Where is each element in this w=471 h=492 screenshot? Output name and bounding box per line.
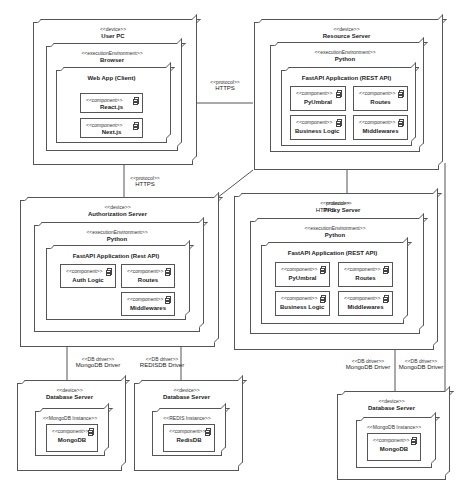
- component-icon: [399, 119, 404, 126]
- component-auth-logic[interactable]: <<component>> Auth Logic: [60, 264, 116, 288]
- component-redisdb[interactable]: <<component>> RedisDB: [163, 424, 215, 452]
- proxy-server-node[interactable]: <<protocol>><<device>> HTTPSProxy Server…: [234, 196, 434, 350]
- connection-label-pc-auth: <<protocol>> HTTPS: [120, 175, 170, 187]
- component-icon: [321, 266, 326, 273]
- proxy-title: HTTPSProxy Server: [235, 207, 433, 213]
- component-icon: [134, 97, 139, 104]
- component-business-logic[interactable]: <<component>> Business Logic: [275, 291, 330, 316]
- component-icon: [384, 295, 389, 302]
- component-icon: [337, 119, 342, 126]
- proxy-stereotype: <<protocol>><<device>>: [235, 200, 433, 206]
- component-icon: [206, 428, 211, 435]
- python-env-node[interactable]: <<executionEnvironment>> Python FastAPI …: [270, 45, 420, 152]
- python-env-node[interactable]: <<executionEnvironment>> Python FastAPI …: [250, 221, 420, 334]
- component-middlewares[interactable]: <<component>> Middlewares: [121, 292, 175, 316]
- redis-instance-node[interactable]: <<REDIS Instance>> <<component>> RedisDB: [152, 411, 222, 456]
- component-middlewares[interactable]: <<component>> Middlewares: [338, 291, 393, 316]
- fastapi-app-node[interactable]: FastAPI Application (Rest API) <<compone…: [46, 248, 186, 320]
- component-icon: [321, 295, 326, 302]
- component-icon: [337, 90, 342, 97]
- component-nextjs[interactable]: <<component>> Next.js: [80, 118, 143, 138]
- component-icon: [107, 268, 112, 275]
- mongodb-instance-node[interactable]: <<MongoDB Instance>> <<component>> Mongo…: [35, 411, 105, 456]
- component-mongodb[interactable]: <<component>> MongoDB: [367, 433, 421, 461]
- authorization-server-node[interactable]: <<device>> Authorization Server <<execut…: [20, 200, 215, 347]
- connection-label-resource-mongo: <<DB driver>> MongoDB Driver: [396, 358, 446, 370]
- connection-label-pc-resource: <<protocol>> HTTPS: [200, 79, 250, 91]
- web-app-node[interactable]: Web App (Client) <<component>> React.js …: [56, 70, 167, 143]
- component-routes[interactable]: <<component>> Routes: [121, 264, 175, 288]
- component-routes[interactable]: <<component>> Routes: [353, 86, 408, 111]
- component-reactjs[interactable]: <<component>> React.js: [80, 93, 143, 113]
- component-business-logic[interactable]: <<component>> Business Logic: [290, 115, 346, 140]
- mongodb-instance-node[interactable]: <<MongoDB Instance>> <<component>> Mongo…: [356, 420, 432, 468]
- connection-label-proxy-mongo: <<DB driver>> MongoDB Driver: [340, 358, 396, 370]
- fastapi-app-node[interactable]: FastAPI Application (REST API) <<compone…: [261, 245, 404, 324]
- user-pc-node[interactable]: <<device>> User PC <<executionEnvironmen…: [33, 22, 193, 165]
- component-pyumbral[interactable]: <<component>> PyUmbral: [275, 262, 330, 287]
- database-server-mongodb-node[interactable]: <<device>> Database Server <<MongoDB Ins…: [17, 383, 122, 471]
- connection-label-auth-mongo: <<DB driver>> MongoDB Driver: [68, 356, 128, 368]
- database-server-redis-node[interactable]: <<device>> Database Server <<REDIS Insta…: [134, 383, 239, 471]
- component-icon: [166, 268, 171, 275]
- fastapi-app-node[interactable]: FastAPI Application (REST API) <<compone…: [281, 70, 412, 146]
- component-routes[interactable]: <<component>> Routes: [338, 262, 393, 287]
- component-pyumbral[interactable]: <<component>> PyUmbral: [290, 86, 346, 111]
- browser-env-node[interactable]: <<executionEnvironment>> Browser Web App…: [46, 46, 178, 151]
- component-icon: [412, 437, 417, 444]
- component-icon: [384, 266, 389, 273]
- component-icon: [134, 122, 139, 129]
- python-env-node[interactable]: <<executionEnvironment>> Python FastAPI …: [34, 225, 200, 332]
- component-icon: [399, 90, 404, 97]
- database-server-mongodb-2-node[interactable]: <<device>> Database Server <<MongoDB Ins…: [337, 394, 446, 480]
- component-icon: [89, 428, 94, 435]
- connection-label-auth-redis: <<DB driver>> REDISDB Driver: [132, 356, 192, 368]
- component-mongodb[interactable]: <<component>> MongoDB: [46, 424, 98, 452]
- component-icon: [166, 296, 171, 303]
- resource-server-node[interactable]: <<device>> Resource Server <<executionEn…: [254, 22, 439, 170]
- component-middlewares[interactable]: <<component>> Middlewares: [353, 115, 408, 140]
